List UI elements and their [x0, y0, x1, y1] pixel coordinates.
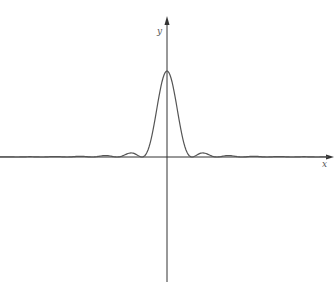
- chart-plot: [0, 0, 334, 282]
- y-axis-label: y: [157, 26, 162, 36]
- sinc-squared-curve: [0, 71, 328, 157]
- x-axis-label: x: [322, 159, 327, 169]
- y-axis-arrow-icon: [165, 16, 170, 25]
